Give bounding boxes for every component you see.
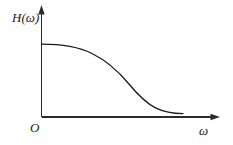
x-axis-arrowhead (211, 114, 221, 120)
response-curve (42, 44, 184, 113)
y-axis-label: H(ω) (12, 11, 39, 24)
origin-label: O (30, 121, 39, 134)
x-axis-label: ω (199, 124, 208, 137)
y-axis-arrowhead (38, 5, 44, 15)
figure-container: H(ω) O ω (0, 0, 233, 145)
